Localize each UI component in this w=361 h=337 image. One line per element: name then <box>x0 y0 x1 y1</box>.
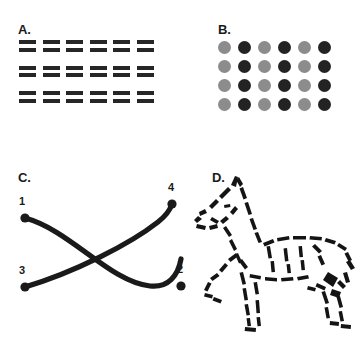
endpoint-label-1: 1 <box>19 196 25 207</box>
curve-endpoint-1 <box>20 213 29 222</box>
dash-mark <box>66 48 83 52</box>
dash-mark <box>43 73 60 77</box>
dash-mark <box>137 91 154 95</box>
dash-mark <box>66 73 83 77</box>
dash-mark <box>90 40 107 44</box>
dash-mark <box>19 40 36 44</box>
dash-mark <box>19 48 36 52</box>
endpoint-label-2: 2 <box>177 264 183 275</box>
dash-row <box>19 91 154 95</box>
dot-dark <box>278 79 291 92</box>
dash-mark <box>43 99 60 103</box>
dot-dark <box>238 98 251 111</box>
dash-mark <box>113 48 130 52</box>
dot-light <box>218 79 231 92</box>
dot-light <box>258 79 271 92</box>
panel-a-label: A. <box>18 23 31 36</box>
dot-light <box>258 60 271 73</box>
dot-light <box>258 98 271 111</box>
panel-b-label: B. <box>218 23 231 36</box>
dash-mark <box>66 40 83 44</box>
dot-dark <box>238 79 251 92</box>
curve-paths <box>25 204 181 287</box>
panel-a-proximity: A. <box>0 0 180 168</box>
dash-mark <box>113 40 130 44</box>
panel-d-closure: D. <box>190 160 361 337</box>
dash-mark <box>113 99 130 103</box>
dash-mark <box>137 66 154 70</box>
dot-dark <box>238 60 251 73</box>
curve-3-to-4 <box>25 204 172 287</box>
dot-light <box>298 60 311 73</box>
dash-mark <box>137 40 154 44</box>
dash-mark <box>113 91 130 95</box>
dash-mark <box>113 73 130 77</box>
dash-mark <box>113 66 130 70</box>
dot-light <box>218 98 231 111</box>
dash-mark <box>137 99 154 103</box>
dot-row <box>218 41 331 54</box>
dash-group <box>19 66 154 78</box>
curve-endpoint-3 <box>20 282 29 291</box>
dot-dark <box>318 98 331 111</box>
dot-dark <box>278 98 291 111</box>
dot-light <box>218 60 231 73</box>
dot-light <box>298 98 311 111</box>
dash-mark <box>90 99 107 103</box>
panel-b-similarity: B. <box>180 0 361 168</box>
dash-mark <box>43 48 60 52</box>
dot-row <box>218 79 331 92</box>
dash-group <box>19 91 154 103</box>
curve-endpoint-4 <box>167 199 176 208</box>
dash-mark <box>43 40 60 44</box>
dot-row <box>218 60 331 73</box>
dash-stack <box>19 40 154 117</box>
dot-dark <box>318 41 331 54</box>
dash-row <box>19 73 154 77</box>
dot-row <box>218 98 331 111</box>
panel-c-good-continuation: C. 1234 <box>0 160 200 337</box>
dash-mark <box>19 66 36 70</box>
dot-dark <box>238 41 251 54</box>
dot-dark <box>318 79 331 92</box>
dot-dark <box>278 60 291 73</box>
dot-grid <box>218 41 331 117</box>
dash-row <box>19 48 154 52</box>
dot-light <box>298 79 311 92</box>
figure-root: A. B. C. 1234 D. <box>0 0 361 337</box>
dot-light <box>298 41 311 54</box>
dash-row <box>19 66 154 70</box>
dash-group <box>19 40 154 52</box>
curve-endpoint-2 <box>176 281 185 290</box>
endpoint-label-3: 3 <box>19 265 25 276</box>
dash-mark <box>90 91 107 95</box>
dot-dark <box>278 41 291 54</box>
dash-mark <box>90 66 107 70</box>
dash-mark <box>43 91 60 95</box>
dash-mark <box>66 91 83 95</box>
dot-dark <box>318 60 331 73</box>
curve-1-to-2 <box>25 218 181 286</box>
dash-mark <box>43 66 60 70</box>
dash-mark <box>66 99 83 103</box>
endpoint-label-4: 4 <box>168 182 174 193</box>
dash-mark <box>19 91 36 95</box>
dash-row <box>19 40 154 44</box>
dash-mark <box>90 48 107 52</box>
dash-mark <box>19 73 36 77</box>
dash-mark <box>137 73 154 77</box>
dot-light <box>258 41 271 54</box>
dash-mark <box>137 48 154 52</box>
dash-mark <box>19 99 36 103</box>
dot-light <box>218 41 231 54</box>
dash-mark <box>90 73 107 77</box>
fragmented-horse-figure <box>190 160 361 337</box>
dash-row <box>19 99 154 103</box>
horse-strokes <box>194 176 355 332</box>
dash-mark <box>66 66 83 70</box>
